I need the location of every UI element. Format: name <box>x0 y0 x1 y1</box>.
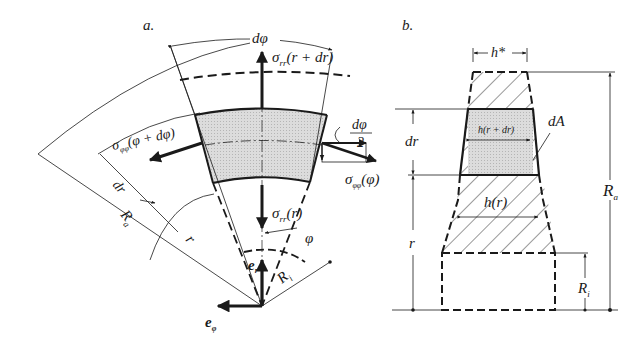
panel-a: a. dφ σrr(r + dr) σφφ(φ + dφ) <box>38 17 380 333</box>
label-ephi: eφ <box>205 314 217 333</box>
stress-element-diagram: a. dφ σrr(r + dr) σφφ(φ + dφ) <box>0 0 644 341</box>
label-Ra-b: Ra <box>602 181 618 202</box>
label-sigma-rr-top: σrr(r + dr) <box>272 49 333 68</box>
inner-region <box>442 253 555 310</box>
sigma-pp-right-arrow <box>322 143 376 161</box>
label-Ra-a: Ra <box>115 206 139 230</box>
label-h-r: h(r) <box>484 194 507 211</box>
label-phi: φ <box>305 230 313 246</box>
label-h-star: h* <box>491 45 505 60</box>
label-r-b: r <box>409 235 415 251</box>
label-dr-b: dr <box>405 133 419 149</box>
label-dphi-half-den: 2 <box>357 135 364 150</box>
label-Ri-b: Ri <box>577 280 590 299</box>
label-er: er <box>248 257 259 275</box>
label-sigma-pp-right: σφφ(φ) <box>345 171 380 190</box>
outer-dashed-arc <box>180 72 350 80</box>
label-Ri-a: Ri <box>273 266 295 289</box>
sigma-pp-left-arrow <box>150 143 202 160</box>
label-dA: dA <box>548 113 566 129</box>
diagram-canvas: a. dφ σrr(r + dr) σφφ(φ + dφ) <box>0 0 644 341</box>
panel-b: b. h* h(r + dr) dA h(r) <box>392 17 618 312</box>
label-dphi: dφ <box>252 30 268 46</box>
label-dphi-half-num: dφ <box>352 117 367 132</box>
label-r-a: r <box>183 232 199 247</box>
label-h-r-dr: h(r + dr) <box>478 124 515 136</box>
panel-b-label: b. <box>402 17 413 33</box>
panel-a-label: a. <box>143 17 154 33</box>
lower-arc <box>150 194 214 260</box>
dA-strip <box>468 109 533 175</box>
label-sigma-rr-bottom: σrr(r) <box>272 205 302 224</box>
